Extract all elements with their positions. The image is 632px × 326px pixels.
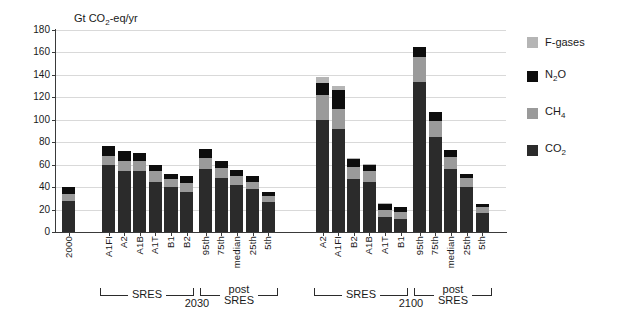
y-tick-label: 80 [22, 137, 50, 147]
x-axis-line [55, 232, 507, 233]
bar-segment-co2 [460, 187, 473, 232]
legend-item-fgases: F-gases [527, 36, 627, 48]
bar-segment-ch4 [230, 176, 243, 185]
bar-segment-co2 [378, 217, 391, 232]
y-tick [52, 210, 56, 211]
bar-segment-co2 [133, 171, 146, 232]
y-tick-label: 20 [22, 205, 50, 215]
bar-segment-co2 [230, 185, 243, 232]
y-axis-title-main: Gt CO [74, 12, 105, 24]
legend-item-ch4: CH4 [527, 105, 627, 122]
bar-segment-n2o [180, 176, 193, 183]
bar-segment-co2 [347, 179, 360, 232]
legend-swatch-co2-icon [527, 145, 538, 156]
bar-25th-21 [460, 174, 473, 232]
bar-median-20 [444, 150, 457, 232]
bar-segment-ch4 [118, 161, 131, 171]
bar-segment-n2o [102, 146, 115, 156]
bar-a1fi-13 [332, 86, 345, 232]
bar-segment-n2o [62, 187, 75, 194]
x-axis-label-a1t: A1T [380, 236, 390, 254]
x-axis-label-a1t: A1T [150, 236, 160, 254]
bar-segment-n2o [149, 165, 162, 172]
bar-segment-ch4 [363, 171, 376, 181]
bracket: postSRES [200, 288, 278, 296]
bar-segment-co2 [180, 192, 193, 232]
bar-segment-n2o [429, 112, 442, 121]
y-tick-label: 60 [22, 160, 50, 170]
y-tick-label: 160 [22, 47, 50, 57]
x-axis-label-median: median [446, 236, 456, 268]
x-axis-label-95th: 95th [201, 236, 211, 255]
legend: F-gases N2O CH4 CO2 [527, 36, 627, 180]
bar-segment-co2 [429, 137, 442, 232]
bar-segment-co2 [316, 120, 329, 232]
y-tick [52, 120, 56, 121]
bar-segment-n2o [413, 47, 426, 57]
bracket: postSRES [414, 288, 492, 296]
bar-segment-n2o [347, 159, 360, 167]
bar-segment-n2o [133, 153, 146, 161]
legend-swatch-ch4-icon [527, 108, 538, 119]
x-axis-label-b2: B2 [349, 236, 359, 248]
x-axis-label-b1: B1 [166, 236, 176, 248]
bar-5th-22 [476, 204, 489, 232]
bar-segment-ch4 [429, 121, 442, 137]
bracket-label: SRES [342, 288, 380, 300]
x-axis-label-b1: B1 [396, 236, 406, 248]
x-axis-label-75th: 75th [216, 236, 226, 255]
chart-root: Gt CO2-eq/yr 020406080100120140160180 20… [0, 0, 632, 326]
legend-label-n2o: N2O [545, 68, 566, 85]
bar-segment-co2 [215, 178, 228, 232]
x-axis-label-b2: B2 [182, 236, 192, 248]
bar-segment-ch4 [413, 57, 426, 82]
y-tick-label: 40 [22, 182, 50, 192]
x-axis-label-median: median [232, 236, 242, 268]
bar-95th-7 [199, 149, 212, 232]
y-tick [52, 187, 56, 188]
x-axis-label-75th: 75th [430, 236, 440, 255]
y-tick-label: 0 [22, 227, 50, 237]
bar-median-9 [230, 170, 243, 232]
bar-segment-co2 [262, 202, 275, 232]
bar-2000-0 [62, 187, 75, 232]
y-tick-label: 180 [22, 25, 50, 35]
bar-segment-co2 [394, 219, 407, 232]
legend-label-ch4: CH4 [545, 105, 565, 122]
bar-segment-n2o [199, 149, 212, 158]
bar-b2-14 [347, 158, 360, 232]
bar-segment-co2 [102, 165, 115, 232]
bar-segment-ch4 [246, 182, 259, 190]
bar-segment-ch4 [102, 156, 115, 165]
bar-segment-co2 [164, 187, 177, 232]
x-axis-label-a1b: A1B [364, 236, 374, 255]
bar-segment-ch4 [347, 167, 360, 179]
bar-a1fi-1 [102, 146, 115, 232]
bar-segment-n2o [215, 161, 228, 168]
bar-a1t-16 [378, 203, 391, 232]
bracket-label: postSRES [220, 284, 258, 306]
bracket: SRES [314, 288, 408, 296]
bar-a1b-3 [133, 153, 146, 232]
y-tick [52, 232, 56, 233]
bar-5th-11 [262, 192, 275, 232]
bar-segment-ch4 [215, 168, 228, 178]
bar-95th-18 [413, 47, 426, 232]
y-axis-title-tail: -eq/yr [110, 12, 138, 24]
y-tick [52, 30, 56, 31]
bar-segment-ch4 [149, 171, 162, 181]
x-axis-label-a1b: A1B [135, 236, 145, 255]
bar-segment-co2 [476, 213, 489, 232]
y-tick [52, 142, 56, 143]
bar-segment-ch4 [316, 95, 329, 120]
y-tick-label: 140 [22, 70, 50, 80]
bracket: SRES [100, 288, 194, 296]
bar-segment-co2 [199, 169, 212, 232]
legend-swatch-fgases-icon [527, 37, 538, 48]
bar-segment-co2 [118, 171, 131, 232]
bar-segment-ch4 [460, 178, 473, 187]
bar-segment-co2 [246, 189, 259, 232]
y-tick [52, 75, 56, 76]
y-axis-title: Gt CO2-eq/yr [74, 12, 138, 27]
x-axis-label-a2: A2 [119, 236, 129, 248]
